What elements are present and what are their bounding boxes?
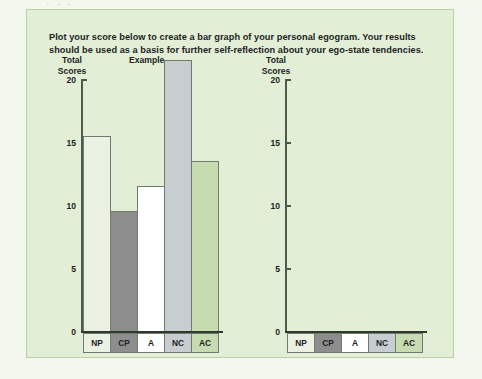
your-score-category-cp: CP — [314, 333, 342, 353]
example-category-labels: NPCPANCAC — [83, 333, 219, 353]
example-plot-area: 05101520 NPCPANCAC — [45, 80, 230, 379]
axis-caption-line1: Total — [62, 55, 82, 65]
your-score-tick-label-15: 15 — [249, 139, 280, 147]
example-tick-label-5: 5 — [45, 265, 76, 273]
example-bar-a[interactable] — [137, 186, 165, 332]
your-score-tick-label-5: 5 — [249, 265, 280, 273]
your-score-category-labels: NPCPANCAC — [287, 333, 423, 353]
example-bar-nc[interactable] — [164, 60, 192, 332]
your-score-category-np: NP — [287, 333, 315, 353]
example-tick-label-15: 15 — [45, 139, 76, 147]
example-bar-cp[interactable] — [110, 211, 138, 332]
instruction-paragraph: Plot your score below to create a bar gr… — [49, 31, 439, 57]
your-score-category-nc: NC — [368, 333, 396, 353]
your-score-tick-label-20: 20 — [249, 76, 280, 84]
example-category-nc: NC — [164, 333, 192, 353]
example-category-np: NP — [83, 333, 111, 353]
example-tick-label-0: 0 — [45, 328, 76, 336]
example-bars — [83, 80, 223, 332]
page-root: · - - Plot your score below to create a … — [0, 0, 482, 379]
your-score-bars[interactable] — [287, 80, 427, 332]
example-tick-label-20: 20 — [45, 76, 76, 84]
your-score-tick-label-10: 10 — [249, 202, 280, 210]
example-label: Example — [129, 55, 164, 66]
example-bar-ac[interactable] — [191, 161, 219, 332]
example-axis-caption: Total Scores — [51, 55, 93, 77]
egogram-worksheet-panel: Plot your score below to create a bar gr… — [26, 9, 454, 358]
axis-caption-line1: Total — [266, 55, 286, 65]
example-category-a: A — [137, 333, 165, 353]
your-score-plot-area[interactable]: 05101520 NPCPANCAC — [249, 80, 434, 379]
cropped-text-artifact: · - - — [46, 0, 166, 6]
example-tick-label-10: 10 — [45, 202, 76, 210]
example-bar-np[interactable] — [83, 136, 111, 332]
example-category-ac: AC — [191, 333, 219, 353]
your-score-tick-label-0: 0 — [249, 328, 280, 336]
your-score-category-a: A — [341, 333, 369, 353]
example-category-cp: CP — [110, 333, 138, 353]
your-score-axis-caption: Total Scores — [255, 55, 297, 77]
your-score-category-ac: AC — [395, 333, 423, 353]
